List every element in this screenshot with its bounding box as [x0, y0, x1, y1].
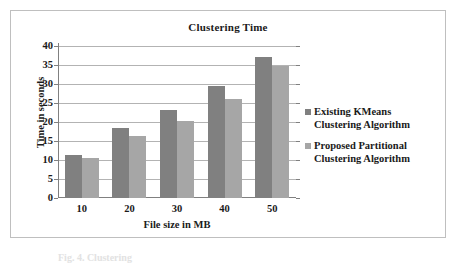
y-tick-mark-right [296, 198, 300, 199]
x-tick-label: 30 [153, 203, 201, 214]
y-tick-label: 40 [43, 40, 54, 51]
figure-frame: Clustering Time Time in seconds 05101520… [10, 10, 446, 238]
legend-label: Proposed Partitional Clustering Algorith… [314, 140, 410, 165]
y-tick-mark [54, 198, 58, 199]
y-tick-mark-right [296, 84, 300, 85]
legend-label-line1: Proposed Partitional [314, 140, 407, 151]
bars-layer [58, 46, 296, 198]
chart-legend: Existing KMeans Clustering Algorithm Pro… [305, 106, 445, 174]
bar[interactable] [272, 66, 289, 198]
bar[interactable] [208, 86, 225, 198]
legend-swatch-icon [305, 143, 311, 149]
bar-group [106, 46, 154, 198]
y-tick-mark-right [296, 179, 300, 180]
y-tick-label: 20 [43, 116, 54, 127]
x-tick-label: 40 [201, 203, 249, 214]
bar[interactable] [225, 99, 242, 198]
x-tick-label: 50 [248, 203, 296, 214]
y-axis-title: Time in seconds [35, 58, 46, 168]
y-tick-label: 35 [43, 59, 54, 70]
legend-item[interactable]: Proposed Partitional Clustering Algorith… [305, 140, 445, 165]
y-tick-mark-right [296, 103, 300, 104]
x-tick-label: 20 [106, 203, 154, 214]
y-tick-label: 10 [43, 154, 54, 165]
bar-group [201, 46, 249, 198]
bar-group [248, 46, 296, 198]
bar-group [153, 46, 201, 198]
bar[interactable] [177, 121, 194, 198]
x-tick-label: 10 [58, 203, 106, 214]
legend-label-line2: Clustering Algorithm [314, 153, 410, 164]
plot-area: 0510152025303540 [58, 46, 296, 198]
y-tick-mark-right [296, 122, 300, 123]
figure-caption: Fig. 4. Clustering [58, 252, 132, 263]
legend-label-line1: Existing KMeans [314, 106, 391, 117]
bar[interactable] [160, 110, 177, 198]
x-axis-title: File size in MB [58, 219, 296, 230]
y-tick-mark-right [296, 65, 300, 66]
bar-group [58, 46, 106, 198]
y-tick-mark-right [296, 46, 300, 47]
y-tick-mark-right [296, 160, 300, 161]
y-tick-label: 0 [48, 192, 53, 203]
bar[interactable] [82, 158, 99, 198]
y-tick-mark-right [296, 141, 300, 142]
legend-label-line2: Clustering Algorithm [314, 119, 410, 130]
y-tick-label: 25 [43, 97, 54, 108]
legend-swatch-icon [305, 109, 311, 115]
bar[interactable] [255, 57, 272, 198]
chart-title: Clustering Time [11, 21, 445, 33]
y-tick-label: 30 [43, 78, 54, 89]
y-tick-label: 15 [43, 135, 54, 146]
legend-item[interactable]: Existing KMeans Clustering Algorithm [305, 106, 445, 131]
bar[interactable] [65, 155, 82, 198]
y-tick-label: 5 [48, 173, 53, 184]
bar[interactable] [112, 128, 129, 198]
bar[interactable] [129, 136, 146, 198]
legend-label: Existing KMeans Clustering Algorithm [314, 106, 410, 131]
x-axis-tick-labels: 1020304050 [58, 203, 296, 214]
